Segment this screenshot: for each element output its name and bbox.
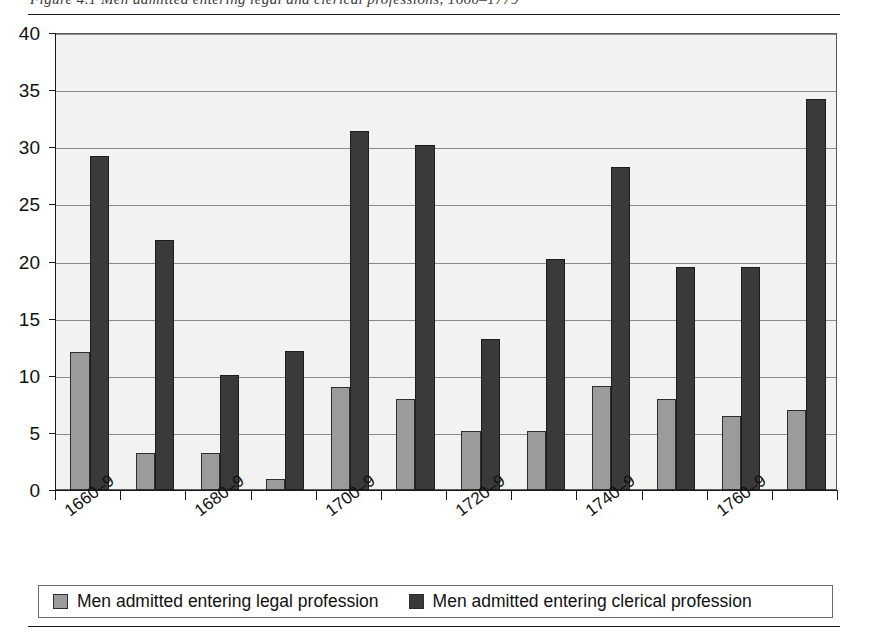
bar-clerical-1730–9 <box>546 259 565 490</box>
caption-rule-bottom <box>28 626 840 627</box>
bar-legal-1700–9 <box>331 387 350 490</box>
y-tick-label-40: 40 <box>19 23 40 45</box>
bar-clerical-1690–9 <box>285 351 304 490</box>
bar-legal-1720–9 <box>461 431 480 490</box>
x-tick-4 <box>316 491 317 500</box>
legend-label-clerical: Men admitted entering clerical professio… <box>433 591 752 612</box>
y-tick-label-30: 30 <box>19 137 40 159</box>
x-tick-5 <box>381 491 382 500</box>
y-tick-label-15: 15 <box>19 309 40 331</box>
bar-legal-1690–9 <box>266 479 285 490</box>
bar-clerical-1760–9 <box>741 267 760 490</box>
y-tick-label-10: 10 <box>19 366 40 388</box>
bar-clerical-1740–9 <box>611 167 630 490</box>
y-tick-label-20: 20 <box>19 252 40 274</box>
bar-legal-1740–9 <box>592 386 611 490</box>
x-tick-11 <box>772 491 773 500</box>
bar-legal-1710–9 <box>396 399 415 490</box>
y-tick-label-35: 35 <box>19 80 40 102</box>
x-tick-0 <box>55 491 56 500</box>
y-tick-label-25: 25 <box>19 194 40 216</box>
x-tick-1 <box>120 491 121 500</box>
caption-rule-top <box>28 14 840 15</box>
x-tick-10 <box>707 491 708 500</box>
bar-clerical-1710–9 <box>415 145 434 490</box>
x-tick-9 <box>642 491 643 500</box>
bar-legal-1750–9 <box>657 399 676 490</box>
x-tick-3 <box>251 491 252 500</box>
bar-legal-1660–9 <box>70 352 89 490</box>
bar-clerical-1720–9 <box>481 339 500 490</box>
x-tick-6 <box>446 491 447 500</box>
x-tick-12 <box>837 491 838 500</box>
bar-clerical-1670–9 <box>155 240 174 490</box>
chart-legend: Men admitted entering legal profession M… <box>38 585 833 618</box>
bar-clerical-1750–9 <box>676 267 695 490</box>
figure-caption: Figure 4.1 Men admitted entering legal a… <box>30 0 830 7</box>
bar-legal-1730–9 <box>527 431 546 490</box>
y-tick-label-5: 5 <box>29 423 40 445</box>
figure-container: Figure 4.1 Men admitted entering legal a… <box>0 0 869 640</box>
y-tick-label-0: 0 <box>29 480 40 502</box>
bar-clerical-1700–9 <box>350 131 369 490</box>
bar-legal-1770–9 <box>787 410 806 490</box>
legend-label-legal: Men admitted entering legal profession <box>77 591 379 612</box>
x-axis: 1660–91680–91700–91720–91740–91760–9 <box>55 490 838 491</box>
bar-legal-1670–9 <box>136 453 155 490</box>
bar-clerical-1770–9 <box>806 99 825 490</box>
x-tick-2 <box>185 491 186 500</box>
x-tick-8 <box>576 491 577 500</box>
bar-clerical-1660–9 <box>90 156 109 490</box>
legend-entry-legal: Men admitted entering legal profession <box>53 591 379 612</box>
bars-group <box>55 33 837 490</box>
clerical-swatch-icon <box>409 594 424 609</box>
bar-legal-1760–9 <box>722 416 741 490</box>
x-tick-7 <box>511 491 512 500</box>
legal-swatch-icon <box>53 594 68 609</box>
legend-entry-clerical: Men admitted entering clerical professio… <box>409 591 752 612</box>
